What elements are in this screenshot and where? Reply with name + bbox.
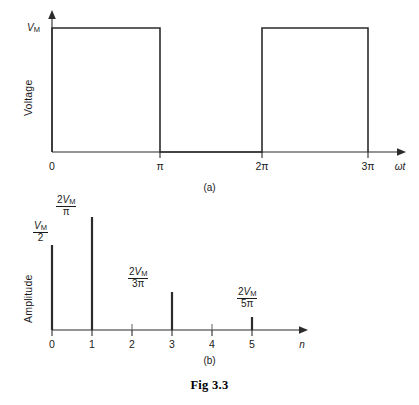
bar-label-n3: 2VM 3π [128, 267, 148, 290]
n-tick-label-4: 4 [209, 338, 215, 350]
bar-label-n0-denominator: 2 [33, 233, 48, 244]
x-tick-label-pi: π [156, 160, 163, 172]
n-tick-label-5: 5 [249, 338, 255, 350]
panel-b-caption: (b) [0, 355, 419, 366]
figure-caption: Fig 3.3 [0, 378, 419, 393]
x-tick-label-0: 0 [49, 160, 55, 172]
x-axis-arrowhead-a [397, 148, 406, 156]
x-tick-label-3pi: 3π [361, 160, 374, 172]
panel-a-caption: (a) [0, 182, 419, 193]
panel-b-amplitude-spectrum: 0 1 2 3 4 5 n Amplitude VM 2 2VM π 2VM 3… [0, 205, 419, 365]
bar-label-n5: 2VM 5π [237, 287, 257, 310]
n5-vm-subscript: M [250, 289, 256, 298]
x-axis-title-omega-t: ωt [395, 161, 407, 172]
y-axis-title-amplitude: Amplitude [22, 275, 34, 324]
n-tick-label-1: 1 [89, 338, 95, 350]
spectrum-svg: 0 1 2 3 4 5 n [0, 205, 419, 365]
n0-vm-symbol: V [34, 220, 41, 231]
figure-3-3: 0 π 2π 3π ωt VM Voltage (a) [0, 0, 419, 405]
y-axis-arrowhead-a [48, 10, 56, 19]
bar-label-n0: VM 2 [33, 221, 48, 244]
vm-symbol: V [27, 22, 34, 33]
panel-a-voltage-waveform: 0 π 2π 3π ωt VM Voltage (a) [0, 0, 419, 175]
bar-label-n5-denominator: 5π [237, 299, 257, 310]
n0-vm-subscript: M [41, 223, 47, 232]
n3-vm-subscript: M [141, 269, 147, 278]
y-axis-title-voltage: Voltage [22, 80, 34, 116]
x-tick-label-2pi: 2π [255, 160, 268, 172]
bar-label-n3-denominator: 3π [128, 279, 148, 290]
bar-label-n1: 2VM π [56, 195, 76, 218]
x-axis-arrowhead-b [299, 326, 308, 334]
vm-subscript: M [34, 25, 40, 34]
square-wave-path [52, 28, 368, 152]
n-tick-label-0: 0 [49, 338, 55, 350]
bar-label-n1-denominator: π [56, 207, 76, 218]
n-tick-label-3: 3 [169, 338, 175, 350]
voltage-waveform-svg: 0 π 2π 3π ωt [0, 0, 419, 175]
n-tick-label-2: 2 [129, 338, 135, 350]
x-axis-title-n: n [299, 339, 305, 350]
vm-amplitude-label: VM [27, 22, 40, 34]
n1-vm-subscript: M [69, 197, 75, 206]
